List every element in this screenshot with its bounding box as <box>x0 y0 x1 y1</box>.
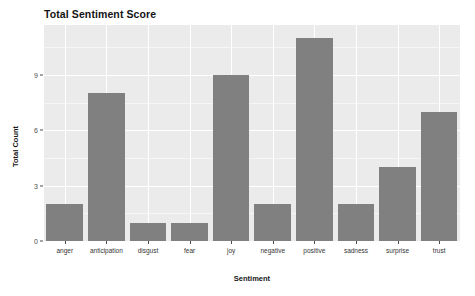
x-tick-mark <box>398 241 399 244</box>
bar-trust <box>421 112 458 241</box>
x-tick-mark <box>106 241 107 244</box>
x-tick-mark <box>190 241 191 244</box>
x-tick-mark <box>65 241 66 244</box>
bar-disgust <box>130 223 167 241</box>
bars-layer <box>44 25 460 241</box>
x-tick-mark <box>356 241 357 244</box>
x-tick-mark <box>314 241 315 244</box>
bar-surprise <box>379 167 416 241</box>
x-axis-ticks: angeranticipationdisgustfearjoynegativep… <box>44 241 460 271</box>
y-tick-mark <box>40 74 43 75</box>
x-tick-label-sadness: sadness <box>344 247 368 254</box>
bar-joy <box>213 75 250 241</box>
y-tick-mark <box>40 130 43 131</box>
x-tick-label-anger: anger <box>56 247 73 254</box>
x-tick-mark <box>439 241 440 244</box>
bar-sadness <box>338 204 375 241</box>
x-tick-label-fear: fear <box>184 247 195 254</box>
y-tick-mark <box>40 185 43 186</box>
plot-panel <box>44 25 460 241</box>
y-tick-label: 0 <box>8 238 38 245</box>
bar-anger <box>46 204 83 241</box>
bar-anticipation <box>88 93 125 241</box>
bar-negative <box>254 204 291 241</box>
x-tick-label-joy: joy <box>227 247 235 254</box>
x-tick-label-negative: negative <box>261 247 286 254</box>
x-tick-label-trust: trust <box>433 247 446 254</box>
bar-chart: Total Sentiment Score Total Count 0369 a… <box>0 0 475 296</box>
x-tick-label-positive: positive <box>303 247 325 254</box>
y-tick-label: 3 <box>8 182 38 189</box>
bar-fear <box>171 223 208 241</box>
x-axis-title: Sentiment <box>44 274 460 283</box>
x-tick-label-surprise: surprise <box>386 247 409 254</box>
x-tick-label-disgust: disgust <box>138 247 159 254</box>
y-tick-mark <box>40 241 43 242</box>
bar-positive <box>296 38 333 241</box>
x-tick-mark <box>273 241 274 244</box>
x-tick-mark <box>148 241 149 244</box>
y-tick-label: 6 <box>8 127 38 134</box>
x-tick-mark <box>231 241 232 244</box>
chart-title: Total Sentiment Score <box>44 8 156 20</box>
x-tick-label-anticipation: anticipation <box>90 247 123 254</box>
y-tick-label: 9 <box>8 71 38 78</box>
y-axis-ticks: 0369 <box>0 25 38 241</box>
